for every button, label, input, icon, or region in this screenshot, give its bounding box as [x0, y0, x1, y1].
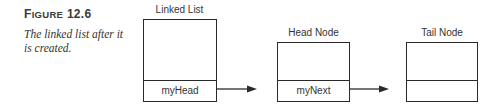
- arrow-linked-list-to-head-node: [217, 86, 257, 93]
- edge-arrows: [0, 0, 499, 104]
- arrow-head-node-to-tail-node: [350, 86, 389, 93]
